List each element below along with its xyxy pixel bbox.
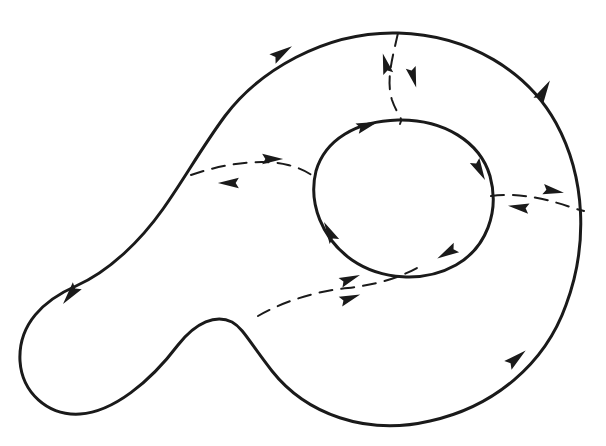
arrow-flow-left-left [218, 178, 239, 188]
flow-line-left [191, 162, 316, 178]
arrow-flow-top-inward [406, 66, 421, 89]
arrow-flow-bottom-lower [339, 290, 362, 307]
arrow-flow-bottom-upper [339, 270, 362, 287]
arrow-flow-right-left [507, 201, 529, 214]
flow-line-bottom [258, 264, 424, 316]
arrow-heads-group [59, 42, 565, 370]
arrow-flow-right-right [542, 184, 564, 198]
flow-line-right [491, 195, 584, 211]
flow-line-top [390, 33, 402, 124]
boundary-curves-group [20, 33, 581, 426]
arrow-inner-top [355, 117, 379, 134]
arrow-inner-bottom-right [435, 243, 460, 263]
figure-canvas [0, 0, 606, 446]
arrow-outer-top-right [533, 78, 554, 104]
outer-boundary-curve [20, 33, 581, 426]
arrow-outer-bottom [504, 346, 529, 370]
inner-boundary-circle [314, 120, 493, 277]
diagram-svg [0, 0, 606, 446]
